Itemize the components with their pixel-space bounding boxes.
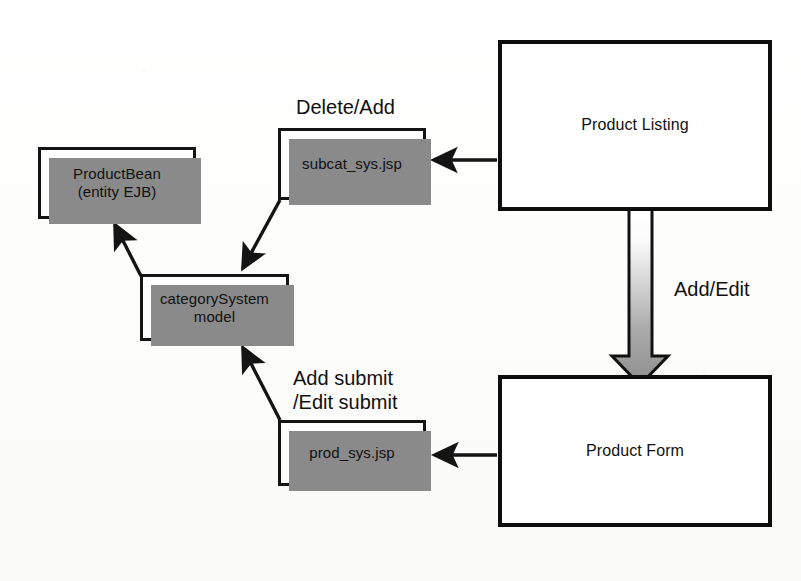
node-category-model-line2: model — [194, 308, 235, 325]
node-prod-jsp-label: prod_sys.jsp — [309, 444, 394, 462]
diagram-canvas: ProductBean (entity EJB) subcat_sys.jsp … — [0, 0, 801, 581]
node-product-bean-label: ProductBean (entity EJB) — [73, 165, 161, 200]
node-subcat-jsp-label: subcat_sys.jsp — [302, 155, 402, 173]
node-product-bean-line2: (entity EJB) — [78, 183, 157, 200]
node-product-listing[interactable]: Product Listing — [498, 40, 772, 211]
edge-subcat-to-category-model — [243, 200, 280, 268]
node-product-form-label: Product Form — [586, 442, 684, 461]
edge-label-add-submit-line2: /Edit submit — [293, 390, 397, 414]
node-category-system-model-label: categorySystem model — [160, 290, 269, 325]
add-edit-block-arrow — [612, 209, 668, 385]
node-product-listing-label: Product Listing — [581, 116, 688, 135]
edge-label-add-edit: Add/Edit — [674, 278, 750, 301]
edge-label-add-submit-line1: Add submit — [293, 366, 397, 390]
node-product-bean-line1: ProductBean — [73, 165, 161, 182]
edge-label-add-submit: Add submit /Edit submit — [293, 366, 397, 415]
node-product-listing-line1: Product Listing — [581, 116, 688, 133]
node-prod-jsp[interactable]: prod_sys.jsp — [278, 420, 426, 486]
node-subcat-jsp-line1: subcat_sys.jsp — [302, 155, 402, 172]
node-product-bean[interactable]: ProductBean (entity EJB) — [38, 147, 196, 219]
node-product-form-line1: Product Form — [586, 442, 684, 459]
node-category-model-line1: categorySystem — [160, 290, 269, 307]
edge-category-model-to-product-bean — [115, 225, 141, 276]
edge-label-delete-add: Delete/Add — [296, 96, 395, 119]
node-product-form[interactable]: Product Form — [498, 375, 772, 527]
edge-prod-to-category-model — [243, 348, 280, 420]
node-prod-jsp-line1: prod_sys.jsp — [309, 444, 394, 461]
node-category-system-model[interactable]: categorySystem model — [140, 274, 289, 341]
node-subcat-jsp[interactable]: subcat_sys.jsp — [278, 128, 426, 200]
